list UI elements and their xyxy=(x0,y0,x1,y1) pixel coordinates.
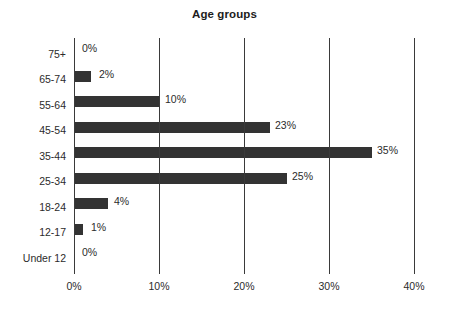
category-label-65-74: 65-74 xyxy=(0,73,66,85)
category-label-12-17: 12-17 xyxy=(0,226,66,238)
bar-value-35-44: 35% xyxy=(377,144,398,156)
category-label-45-54: 45-54 xyxy=(0,124,66,136)
bar-65-74 xyxy=(74,71,91,82)
xtick-30 xyxy=(329,268,330,274)
bar-35-44 xyxy=(74,147,372,158)
category-label-35-44: 35-44 xyxy=(0,150,66,162)
chart-title: Age groups xyxy=(0,8,449,20)
xtick-10 xyxy=(159,268,160,274)
bar-45-54 xyxy=(74,122,270,133)
category-label-55-64: 55-64 xyxy=(0,99,66,111)
gridline-20 xyxy=(244,38,245,268)
xtick-20 xyxy=(244,268,245,274)
plot-area: 0% 2% 10% 23% 35% 25% 4% 1% 0% xyxy=(74,38,414,268)
xtick-40 xyxy=(414,268,415,274)
bar-value-under-12: 0% xyxy=(82,246,97,258)
xaxis-label-20: 20% xyxy=(214,280,274,292)
gridline-40 xyxy=(414,38,415,268)
category-label-75-plus: 75+ xyxy=(0,48,66,60)
bar-12-17 xyxy=(74,224,83,235)
bar-value-12-17: 1% xyxy=(91,221,106,233)
gridline-0 xyxy=(74,38,75,268)
gridline-10 xyxy=(159,38,160,268)
xaxis-label-30: 30% xyxy=(299,280,359,292)
category-label-25-34: 25-34 xyxy=(0,175,66,187)
xaxis-label-0: 0% xyxy=(44,280,104,292)
bar-value-45-54: 23% xyxy=(275,119,296,131)
category-label-under-12: Under 12 xyxy=(0,252,66,264)
bar-value-25-34: 25% xyxy=(292,170,313,182)
xaxis-label-10: 10% xyxy=(129,280,189,292)
gridline-30 xyxy=(329,38,330,268)
bar-18-24 xyxy=(74,198,108,209)
xtick-0 xyxy=(74,268,75,274)
bar-value-55-64: 10% xyxy=(165,93,186,105)
bar-55-64 xyxy=(74,96,159,107)
bar-value-18-24: 4% xyxy=(114,195,129,207)
bar-25-34 xyxy=(74,173,287,184)
bar-value-65-74: 2% xyxy=(99,68,114,80)
bar-value-75-plus: 0% xyxy=(82,42,97,54)
xaxis-label-40: 40% xyxy=(384,280,444,292)
category-label-18-24: 18-24 xyxy=(0,201,66,213)
